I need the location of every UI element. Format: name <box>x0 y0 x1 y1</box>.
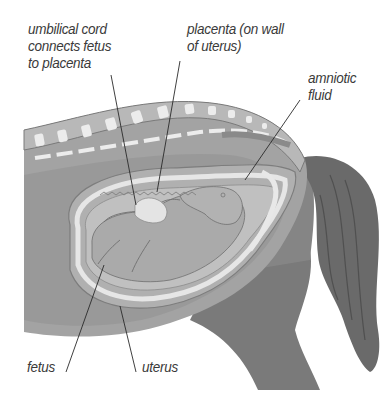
label-uterus: uterus <box>142 358 178 375</box>
label-umbilical-cord: umbilical cord connects fetus to placent… <box>28 20 111 71</box>
label-amniotic-fluid: amniotic fluid <box>308 69 356 103</box>
label-placenta: placenta (on wall of uterus) <box>187 20 284 54</box>
label-fetus: fetus <box>27 358 55 375</box>
